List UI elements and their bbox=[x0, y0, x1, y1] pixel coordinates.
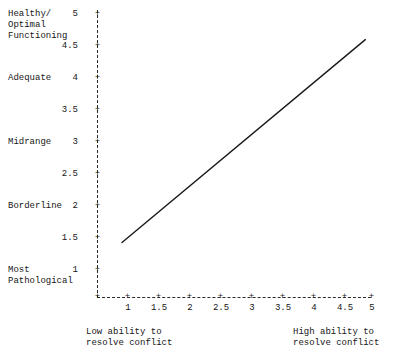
y-category-label-adequate: Adequate bbox=[8, 73, 70, 84]
x-tick-mark-3: + bbox=[247, 293, 256, 302]
y-tick-mark-2-5: + bbox=[93, 170, 102, 179]
y-tick-mark-4-5: + bbox=[93, 42, 102, 51]
y-category-label-midrange: Midrange bbox=[8, 137, 70, 148]
x-tick-label-4: 4 bbox=[299, 303, 329, 314]
y-tick-mark-2: + bbox=[93, 202, 102, 211]
x-tick-mark-1-5: + bbox=[154, 293, 163, 302]
y-tick-label-4-5: 4.5 bbox=[48, 41, 78, 52]
x-axis-caption-high: High ability to resolve conflict bbox=[293, 327, 379, 349]
chart-figure: 5 4.5 4 3.5 3 2.5 2 1.5 1 Healthy/ Optim… bbox=[0, 0, 408, 351]
y-axis-line bbox=[97, 10, 98, 298]
x-tick-label-3-5: 3.5 bbox=[268, 303, 298, 314]
y-tick-mark-3: + bbox=[93, 138, 102, 147]
x-tick-mark-4: + bbox=[309, 293, 318, 302]
x-tick-mark-5: + bbox=[367, 293, 376, 302]
x-tick-mark-2: + bbox=[185, 293, 194, 302]
y-tick-mark-4: + bbox=[93, 74, 102, 83]
x-tick-label-4-5: 4.5 bbox=[330, 303, 360, 314]
y-category-label-borderline: Borderline bbox=[8, 201, 70, 212]
x-tick-label-2: 2 bbox=[175, 303, 205, 314]
x-tick-label-1-5: 1.5 bbox=[144, 303, 174, 314]
x-tick-label-2-5: 2.5 bbox=[206, 303, 236, 314]
x-axis-caption-low: Low ability to resolve conflict bbox=[86, 327, 172, 349]
y-tick-mark-1-5: + bbox=[93, 234, 102, 243]
x-tick-mark-4-5: + bbox=[340, 293, 349, 302]
y-tick-mark-3-5: + bbox=[93, 106, 102, 115]
trend-line bbox=[122, 40, 365, 243]
x-tick-mark-2-5: + bbox=[216, 293, 225, 302]
x-axis-line bbox=[97, 297, 371, 298]
y-category-label-most-pathological: Most Pathological bbox=[8, 265, 70, 287]
x-tick-label-1: 1 bbox=[113, 303, 143, 314]
x-tick-mark-origin: + bbox=[93, 293, 102, 302]
x-tick-label-3: 3 bbox=[237, 303, 267, 314]
x-tick-mark-3-5: + bbox=[278, 293, 287, 302]
y-tick-mark-5: + bbox=[93, 10, 102, 19]
y-tick-label-3-5: 3.5 bbox=[48, 105, 78, 116]
y-tick-label-2-5: 2.5 bbox=[48, 169, 78, 180]
y-tick-label-1-5: 1.5 bbox=[48, 233, 78, 244]
y-tick-mark-1: + bbox=[93, 266, 102, 275]
y-category-label-healthy-optimal-functioning: Healthy/ Optimal Functioning bbox=[8, 9, 70, 42]
x-tick-mark-1: + bbox=[123, 293, 132, 302]
x-tick-label-5: 5 bbox=[357, 303, 387, 314]
